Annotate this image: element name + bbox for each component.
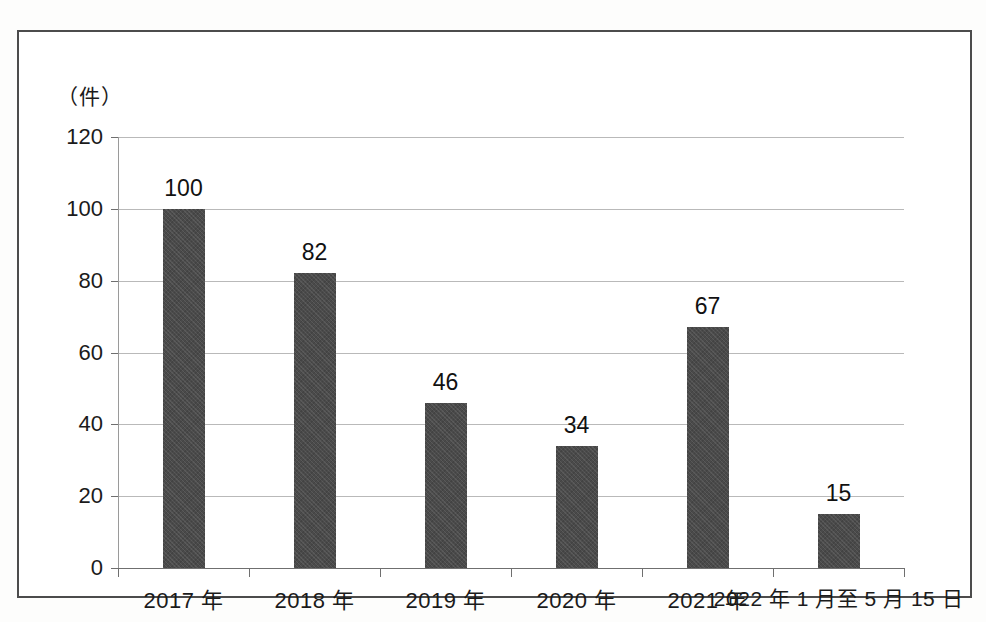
bar-value-label: 82 xyxy=(270,239,360,266)
y-tick-mark xyxy=(111,353,118,354)
y-tick-mark xyxy=(111,496,118,497)
y-tick-mark xyxy=(111,424,118,425)
bar xyxy=(556,446,598,568)
y-tick-label: 40 xyxy=(43,411,103,437)
bar xyxy=(425,403,467,568)
plot-area xyxy=(118,137,904,568)
x-tick-mark xyxy=(642,568,643,577)
y-tick-mark xyxy=(111,568,118,569)
bar xyxy=(163,209,205,568)
y-tick-label: 100 xyxy=(43,196,103,222)
chart-frame: （件） 020406080100120 1008246346715 2017 年… xyxy=(17,30,972,598)
x-tick-mark xyxy=(380,568,381,577)
bar xyxy=(294,273,336,568)
x-tick-label: 2017 年 xyxy=(143,582,223,614)
bar xyxy=(818,514,860,568)
x-tick-mark xyxy=(773,568,774,577)
y-tick-mark xyxy=(111,281,118,282)
bar-value-label: 34 xyxy=(532,412,622,439)
y-axis-tick-labels: 020406080100120 xyxy=(41,32,103,622)
x-tick-mark xyxy=(249,568,250,577)
y-tick-label: 20 xyxy=(43,483,103,509)
bar-value-label: 15 xyxy=(794,480,884,507)
screenshot-page: （件） 020406080100120 1008246346715 2017 年… xyxy=(0,0,986,622)
x-tick-label: 2022 年 1 月至 5 月 15 日 xyxy=(714,582,963,612)
y-tick-mark xyxy=(111,137,118,138)
bar-value-label: 67 xyxy=(663,293,753,320)
y-tick-label: 120 xyxy=(43,124,103,150)
x-tick-mark xyxy=(118,568,119,577)
x-tick-label: 2018 年 xyxy=(274,582,354,614)
x-tick-mark xyxy=(511,568,512,577)
x-tick-label: 2020 年 xyxy=(536,582,616,614)
y-tick-mark xyxy=(111,209,118,210)
y-tick-label: 0 xyxy=(43,555,103,581)
bar-value-label: 100 xyxy=(139,175,229,202)
y-tick-label: 80 xyxy=(43,268,103,294)
bar xyxy=(687,327,729,568)
bar-value-label: 46 xyxy=(401,369,491,396)
x-tick-label: 2019 年 xyxy=(405,582,485,614)
x-tick-mark xyxy=(904,568,905,577)
y-tick-label: 60 xyxy=(43,340,103,366)
